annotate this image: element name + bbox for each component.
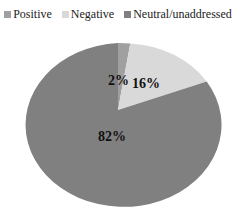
slice-label-neutral: 82% <box>98 129 126 144</box>
pie-chart: 2% 16% 82% <box>0 0 236 224</box>
slice-label-negative: 16% <box>132 76 160 91</box>
slice-label-positive: 2% <box>108 73 129 88</box>
pie-slices <box>26 43 222 207</box>
